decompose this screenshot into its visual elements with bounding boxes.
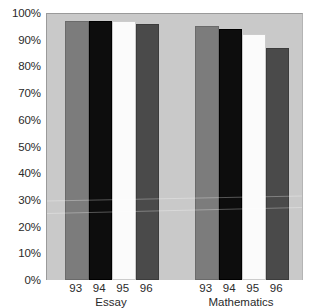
x-axis-tick-label: 93 bbox=[69, 282, 82, 294]
bars-container bbox=[47, 14, 302, 280]
bar-essay-96 bbox=[136, 24, 160, 280]
y-axis-tick-label: 10% bbox=[18, 247, 41, 259]
y-axis-tick-label: 90% bbox=[18, 34, 41, 46]
y-axis-tick-label: 80% bbox=[18, 60, 41, 72]
y-axis-tick-label: 70% bbox=[18, 87, 41, 99]
x-axis-tick-label: 95 bbox=[116, 282, 129, 294]
plot-area bbox=[46, 13, 303, 280]
y-axis-tick-label: 60% bbox=[18, 114, 41, 126]
y-axis-tick-label: 50% bbox=[18, 141, 41, 153]
x-axis-tick-label: 94 bbox=[223, 282, 236, 294]
group-label-mathematics: Mathematics bbox=[208, 296, 273, 308]
group-label-essay: Essay bbox=[95, 296, 126, 308]
bar-mathematics-96 bbox=[266, 48, 290, 280]
x-axis-tick-label: 96 bbox=[140, 282, 153, 294]
x-axis-tick-label: 94 bbox=[93, 282, 106, 294]
x-axis-tick-label: 95 bbox=[246, 282, 259, 294]
bar-chart: 0%10%20%30%40%50%60%70%80%90%100% 939495… bbox=[0, 0, 309, 308]
y-axis-tick-label: 40% bbox=[18, 167, 41, 179]
bar-essay-93 bbox=[65, 21, 89, 280]
bar-essay-94 bbox=[89, 21, 113, 280]
x-axis: 93949596Essay93949596Mathematics bbox=[46, 280, 303, 308]
bar-mathematics-93 bbox=[195, 26, 219, 280]
bar-mathematics-95 bbox=[242, 34, 266, 280]
y-axis-tick-label: 20% bbox=[18, 221, 41, 233]
y-axis: 0%10%20%30%40%50%60%70%80%90%100% bbox=[0, 0, 44, 308]
y-axis-tick-label: 100% bbox=[12, 7, 41, 19]
x-axis-tick-label: 96 bbox=[270, 282, 283, 294]
y-axis-tick-label: 0% bbox=[25, 274, 41, 286]
y-axis-tick-label: 30% bbox=[18, 194, 41, 206]
x-axis-tick-label: 93 bbox=[199, 282, 212, 294]
bar-mathematics-94 bbox=[219, 29, 243, 280]
bar-essay-95 bbox=[112, 21, 136, 280]
